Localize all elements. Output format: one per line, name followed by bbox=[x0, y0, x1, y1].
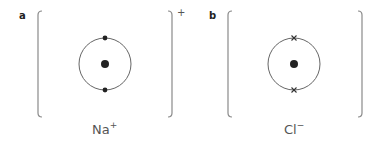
ion-label-b: Cl− bbox=[284, 120, 304, 137]
electron-dot-icon bbox=[103, 88, 108, 93]
ion-diagram: a + Na+ b Cl− bbox=[0, 0, 381, 143]
left-bracket-a bbox=[38, 11, 42, 117]
nucleus-a bbox=[101, 60, 109, 68]
electron-dot-icon bbox=[103, 36, 108, 41]
ion-symbol-a: Na bbox=[92, 122, 110, 137]
bracket-charge-a: + bbox=[177, 7, 185, 18]
ion-symbol-b: Cl bbox=[284, 122, 297, 137]
right-bracket-b bbox=[358, 11, 362, 117]
nucleus-b bbox=[290, 60, 298, 68]
ion-label-a: Na+ bbox=[92, 120, 117, 137]
ion-charge-a: + bbox=[110, 120, 118, 130]
left-bracket-b bbox=[228, 11, 232, 117]
panel-label-a: a bbox=[19, 10, 26, 21]
panel-b: b Cl− bbox=[209, 10, 362, 137]
ion-charge-b: − bbox=[297, 120, 305, 130]
right-bracket-a bbox=[168, 11, 172, 117]
panel-a: a + Na+ bbox=[19, 7, 185, 137]
panel-label-b: b bbox=[209, 10, 216, 21]
